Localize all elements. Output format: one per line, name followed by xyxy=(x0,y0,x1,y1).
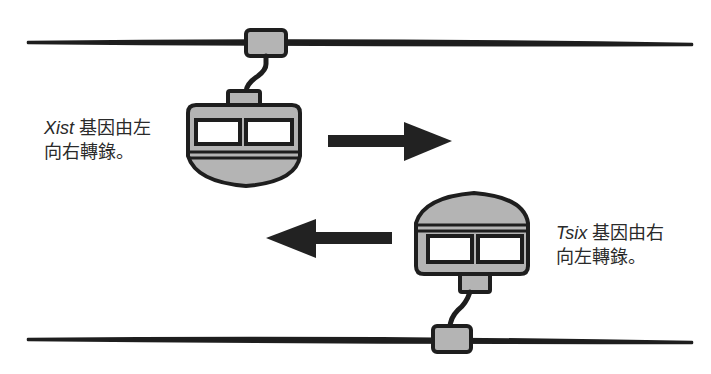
tsix-label: Tsix 基因由右 向左轉錄。 xyxy=(556,221,664,269)
xist-label-line1: Xist 基因由左 xyxy=(44,116,151,140)
xist-label-line2: 向右轉錄。 xyxy=(44,140,151,164)
tsix-gene-name: Tsix xyxy=(556,223,587,243)
arrow-left-icon xyxy=(266,219,392,258)
tsix-label-line1: Tsix 基因由右 xyxy=(556,221,664,245)
xist-gondola-icon xyxy=(188,30,300,186)
top-strand-line xyxy=(28,40,692,45)
xist-label: Xist 基因由左 向右轉錄。 xyxy=(44,116,151,164)
tsix-label-line1-text: 基因由右 xyxy=(587,223,664,243)
bottom-strand-line xyxy=(28,338,692,343)
diagram-canvas xyxy=(0,0,711,374)
arrow-right-icon xyxy=(328,122,452,161)
xist-gene-name: Xist xyxy=(44,118,74,138)
tsix-label-line2: 向左轉錄。 xyxy=(556,245,664,269)
tsix-gondola-icon xyxy=(416,193,528,352)
xist-label-line1-text: 基因由左 xyxy=(74,118,151,138)
